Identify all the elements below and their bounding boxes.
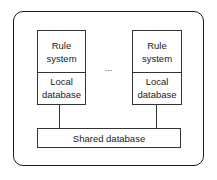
- local-database-right-line1: Local: [137, 75, 176, 88]
- connector-right: [156, 105, 157, 128]
- rule-system-left-line2: system: [46, 52, 76, 65]
- shared-database: Shared database: [37, 128, 181, 148]
- local-database-right-line2: database: [137, 88, 176, 101]
- ellipsis: ...: [100, 63, 117, 73]
- rule-system-right-line2: system: [142, 52, 172, 65]
- local-database-left-line2: database: [42, 88, 81, 101]
- rule-system-right: Rule system: [133, 31, 181, 73]
- node-right: Rule system Local database: [132, 30, 182, 105]
- rule-system-right-line1: Rule: [142, 39, 172, 52]
- rule-system-left-line1: Rule: [46, 39, 76, 52]
- shared-database-label: Shared database: [73, 133, 145, 144]
- local-database-left-line1: Local: [42, 75, 81, 88]
- local-database-left: Local database: [38, 72, 85, 104]
- rule-system-left: Rule system: [38, 31, 85, 73]
- local-database-right: Local database: [133, 72, 181, 104]
- node-left: Rule system Local database: [37, 30, 86, 105]
- connector-left: [59, 105, 60, 128]
